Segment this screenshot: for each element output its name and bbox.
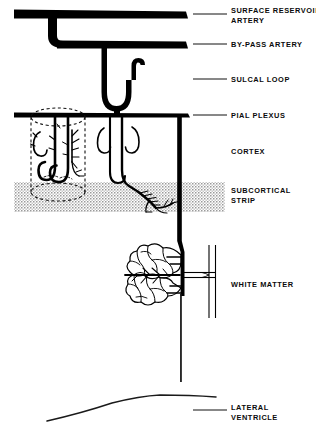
subcortical-strip-band xyxy=(14,182,225,212)
cortex-penetrators-left xyxy=(31,117,85,182)
diagram-canvas xyxy=(0,0,316,435)
by-pass-artery-bar xyxy=(57,41,188,49)
vascular-supply-figure: SURFACE RESERVOIRARTERY BY-PASS ARTERY S… xyxy=(0,0,316,435)
white-matter-anastomosis xyxy=(184,245,216,318)
lateral-ventricle-outline xyxy=(47,395,216,421)
surface-reservoir-artery-bar xyxy=(14,10,188,19)
sulcal-loop-vessel xyxy=(102,48,146,116)
white-matter-tuft xyxy=(125,244,183,305)
long-medullary-artery xyxy=(177,114,184,382)
pial-plexus-bar xyxy=(14,113,190,118)
